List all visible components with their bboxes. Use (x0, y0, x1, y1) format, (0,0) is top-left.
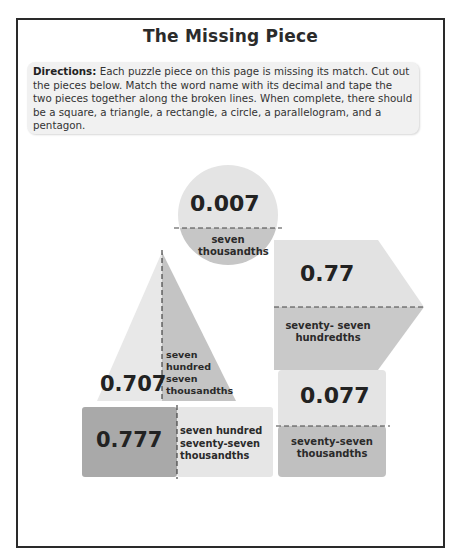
rectangle-words: seven hundredseventy-seventhousandths (180, 425, 262, 463)
circle-words: seventhousandths (198, 234, 258, 258)
square-decimal: 0.077 (300, 383, 370, 408)
square-words: seventy-seventhousandths (282, 436, 382, 460)
triangle-words: sevenhundredseventhousandths (166, 349, 233, 397)
pentagon-words: seventy- sevenhundredths (278, 320, 378, 344)
pentagon-piece[interactable] (274, 240, 426, 370)
puzzle-pieces (0, 0, 457, 553)
pentagon-decimal: 0.77 (300, 261, 354, 286)
rectangle-decimal: 0.777 (96, 428, 162, 452)
circle-decimal: 0.007 (190, 191, 260, 216)
triangle-decimal: 0.707 (100, 372, 166, 396)
